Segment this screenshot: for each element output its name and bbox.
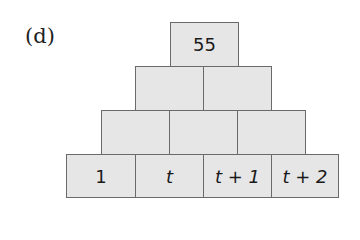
pyramid-base-cell-4: t + 2 [271, 154, 339, 198]
expr-t-plus-1: t + 1 [215, 166, 260, 187]
pyramid-row2-cell-1 [135, 66, 204, 111]
pyramid-row3-cell-3 [237, 110, 306, 155]
pyramid-base-cell-1: 1 [66, 154, 136, 198]
pyramid-row3-cell-2 [169, 110, 238, 155]
pyramid-base-cell-3: t + 1 [203, 154, 272, 198]
pyramid-row2-cell-2 [203, 66, 272, 111]
expr-t-plus-2: t + 2 [282, 166, 327, 187]
pyramid-top-cell: 55 [170, 22, 239, 67]
pyramid-base-cell-2: t [135, 154, 204, 198]
part-label: (d) [25, 22, 55, 50]
pyramid-row3-cell-1 [101, 110, 170, 155]
